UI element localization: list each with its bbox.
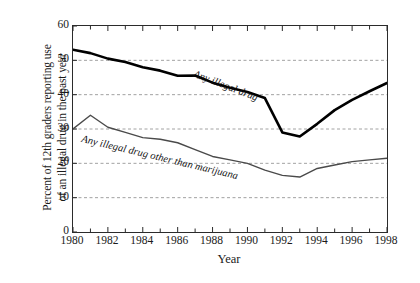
y-tick-label: 10 (47, 191, 69, 203)
y-tick-label: 30 (47, 122, 69, 134)
y-tick-label: 40 (47, 88, 69, 100)
y-axis-title-wrap: Percent of 12th graders reporting use of… (0, 0, 46, 245)
y-tick-label: 20 (47, 156, 69, 168)
x-axis-title: Year (72, 252, 386, 267)
y-tick-label: 50 (47, 53, 69, 65)
x-axis-tick-labels: 1980198219841986198819901992199419961998 (0, 234, 420, 250)
chart-figure: Percent of 12th graders reporting use of… (0, 0, 420, 283)
chart-canvas (73, 26, 387, 232)
plot-area (72, 25, 388, 233)
x-tick-label: 1998 (366, 234, 406, 246)
data-series (73, 50, 387, 177)
y-tick-label: 60 (47, 19, 69, 31)
